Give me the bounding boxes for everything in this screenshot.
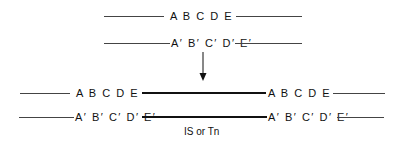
top-strand1-right-line xyxy=(236,16,302,17)
bottom-left-strand1-label: A B C D E xyxy=(76,87,139,99)
bottom-strand1-left-line xyxy=(20,93,70,94)
bottom-strand2-left-line xyxy=(19,117,74,118)
arrow-down-icon xyxy=(197,52,209,82)
top-strand2-right-line xyxy=(235,43,302,44)
insert-strand2-line xyxy=(142,116,267,118)
bottom-strand1-right-line xyxy=(333,93,385,94)
top-strand2-left-line xyxy=(104,43,170,44)
bottom-strand2-right-line xyxy=(337,117,384,118)
top-strand1-label: A B C D E xyxy=(170,10,233,22)
insert-label: IS or Tn xyxy=(184,126,219,137)
top-strand1-left-line xyxy=(104,16,164,17)
insert-strand1-line xyxy=(142,92,266,94)
bottom-right-strand1-label: A B C D E xyxy=(268,87,331,99)
